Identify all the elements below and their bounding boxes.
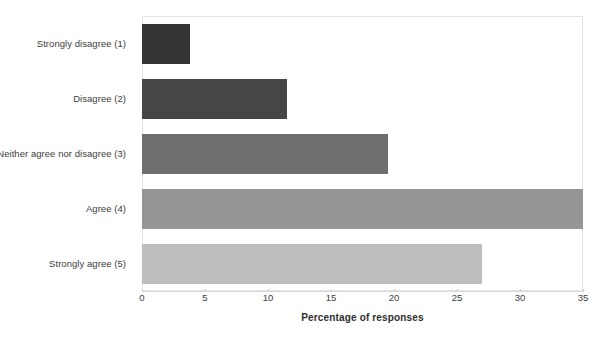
bar-row: Disagree (2) [0,71,583,126]
bar-row: Strongly disagree (1) [0,16,583,71]
bar-track [142,181,583,236]
x-tick-label: 25 [437,292,477,303]
bar-chart: Strongly disagree (1)Disagree (2)Neither… [0,0,598,344]
category-label: Agree (4) [0,203,126,214]
bar-track [142,16,583,71]
x-axis-title: Percentage of responses [142,312,583,323]
bar-track [142,126,583,181]
chart-title-cropped [44,0,344,3]
category-label: Strongly disagree (1) [0,38,126,49]
bar-5[interactable] [142,244,482,284]
x-tick-label: 30 [500,292,540,303]
bar-track [142,236,583,291]
bar-2[interactable] [142,79,287,119]
category-label: Strongly agree (5) [0,258,126,269]
bar-row: Agree (4) [0,181,583,236]
category-label: Neither agree nor disagree (3) [0,148,126,159]
x-tick-label: 15 [311,292,351,303]
bar-4[interactable] [142,189,583,229]
bar-rows: Strongly disagree (1)Disagree (2)Neither… [0,16,583,291]
x-tick-label: 0 [122,292,162,303]
x-tick-label: 35 [563,292,598,303]
x-axis-ticks: 05101520253035 [142,292,583,308]
bar-1[interactable] [142,24,190,64]
bar-row: Strongly agree (5) [0,236,583,291]
bar-track [142,71,583,126]
x-tick-label: 10 [248,292,288,303]
bar-3[interactable] [142,134,388,174]
bar-row: Neither agree nor disagree (3) [0,126,583,181]
x-tick-label: 20 [374,292,414,303]
category-label: Disagree (2) [0,93,126,104]
x-tick-label: 5 [185,292,225,303]
